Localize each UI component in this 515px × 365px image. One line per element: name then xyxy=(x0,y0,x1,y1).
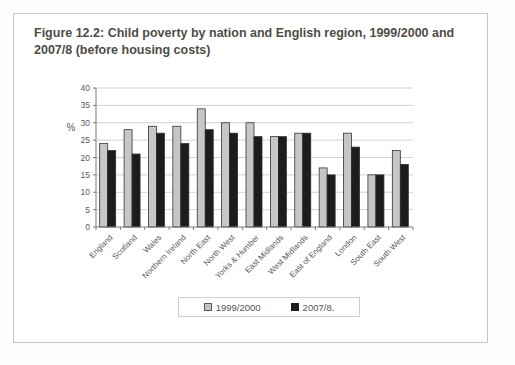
y-tick-label: 15 xyxy=(81,170,91,180)
bar-2007-8-yorks-humber xyxy=(254,137,262,227)
legend-label-2007-8: 2007/8. xyxy=(303,302,335,313)
bar-1999-2000-scotland xyxy=(124,130,132,227)
bar-2007-8-scotland xyxy=(132,154,140,227)
figure-box: Figure 12.2: Child poverty by nation and… xyxy=(13,13,488,343)
y-tick-label: 0 xyxy=(85,222,90,232)
bar-2007-8-south-west xyxy=(400,164,408,227)
x-tick-label: Scotland xyxy=(111,233,139,261)
bar-2007-8-west-midlands xyxy=(303,133,311,227)
bar-1999-2000-south-west xyxy=(392,151,400,227)
bar-2007-8-northern-ireland xyxy=(181,144,189,227)
y-tick-label: 10 xyxy=(81,187,91,197)
bar-2007-8-england xyxy=(108,151,116,227)
bar-2007-8-wales xyxy=(156,133,164,227)
page: Figure 12.2: Child poverty by nation and… xyxy=(0,0,515,365)
bar-1999-2000-yorks-humber xyxy=(246,123,254,227)
y-tick-label: 25 xyxy=(81,135,91,145)
legend-item-1999-2000: 1999/2000 xyxy=(204,302,261,313)
bar-1999-2000-south-east xyxy=(368,175,376,227)
chart-svg: 0510152025303540%EnglandScotlandWalesNor… xyxy=(14,14,487,342)
legend-swatch-gray xyxy=(204,303,212,311)
x-tick-label: Northern Ireland xyxy=(141,233,188,280)
bar-1999-2000-north-east xyxy=(197,109,205,227)
bar-2007-8-london xyxy=(352,147,360,227)
y-tick-label: 20 xyxy=(81,153,91,163)
bar-1999-2000-england xyxy=(100,144,108,227)
bar-1999-2000-london xyxy=(344,133,352,227)
bar-2007-8-north-east xyxy=(205,130,213,227)
y-tick-label: 30 xyxy=(81,118,91,128)
bar-1999-2000-wales xyxy=(148,126,156,227)
bar-2007-8-east-midlands xyxy=(278,137,286,227)
bar-1999-2000-east-of-england xyxy=(319,168,327,227)
y-tick-label: 35 xyxy=(81,100,91,110)
bar-1999-2000-west-midlands xyxy=(295,133,303,227)
legend-label-1999-2000: 1999/2000 xyxy=(216,302,261,313)
bar-2007-8-south-east xyxy=(376,175,384,227)
bar-1999-2000-northern-ireland xyxy=(173,126,181,227)
y-tick-label: 5 xyxy=(85,205,90,215)
chart-legend: 1999/2000 2007/8. xyxy=(178,297,360,317)
bar-2007-8-north-west xyxy=(230,133,238,227)
legend-swatch-black xyxy=(291,303,299,311)
x-tick-label: Wales xyxy=(141,233,163,255)
x-tick-label: East of England xyxy=(288,233,334,279)
legend-item-2007-8: 2007/8. xyxy=(291,302,335,313)
bar-1999-2000-north-west xyxy=(222,123,230,227)
y-tick-label: 40 xyxy=(81,83,91,93)
bar-2007-8-east-of-england xyxy=(327,175,335,227)
y-axis-label: % xyxy=(67,122,76,133)
bar-1999-2000-east-midlands xyxy=(270,137,278,227)
